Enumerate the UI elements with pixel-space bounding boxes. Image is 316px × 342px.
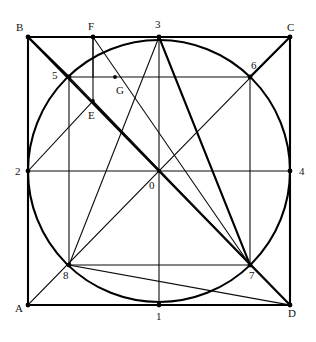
segment-line-F-to-7	[93, 37, 250, 265]
vertex-dot-P7	[248, 263, 253, 268]
point-label-P1: 1	[156, 311, 162, 322]
vertex-dot-G	[113, 75, 117, 79]
vertex-dot-F	[91, 35, 96, 40]
vertex-dot-P4	[288, 169, 293, 174]
vertex-dot-C	[288, 35, 293, 40]
point-label-B: B	[16, 22, 23, 33]
point-label-P2: 2	[15, 166, 21, 177]
point-label-P5: 5	[52, 70, 58, 81]
vertex-dot-P5	[67, 75, 72, 80]
segment-chord-2-to-E	[28, 101, 93, 171]
point-label-F: F	[88, 21, 94, 32]
segment-chord-3-to-8	[69, 37, 159, 265]
segment-line-E-to-7	[93, 101, 250, 265]
vertex-dot-B	[26, 35, 31, 40]
point-label-O: 0	[149, 180, 155, 191]
segment-line-5-to-B	[28, 37, 69, 77]
point-label-A: A	[15, 303, 23, 314]
segment-line-6-to-C	[250, 37, 290, 77]
figure-canvas	[0, 0, 316, 342]
segment-chord-3-to-7	[159, 37, 250, 265]
point-label-P7: 7	[249, 270, 255, 281]
point-label-D: D	[288, 308, 296, 319]
vertex-dot-P3	[157, 35, 162, 40]
vertex-dot-O	[157, 169, 161, 173]
point-label-E: E	[88, 110, 95, 121]
point-label-P8: 8	[63, 270, 69, 281]
vertex-dot-P6	[248, 75, 253, 80]
point-label-P6: 6	[251, 60, 257, 71]
vertex-dot-P8	[67, 263, 72, 268]
point-label-G: G	[116, 85, 124, 96]
vertex-dot-A	[26, 303, 31, 308]
geometry-figure: ABCD123456780EFG	[0, 0, 316, 342]
point-label-P4: 4	[299, 166, 305, 177]
vertex-dot-E	[91, 99, 95, 103]
point-label-P3: 3	[155, 19, 161, 30]
vertex-dot-P1	[157, 303, 162, 308]
point-label-C: C	[287, 22, 294, 33]
vertex-dot-P2	[26, 169, 31, 174]
